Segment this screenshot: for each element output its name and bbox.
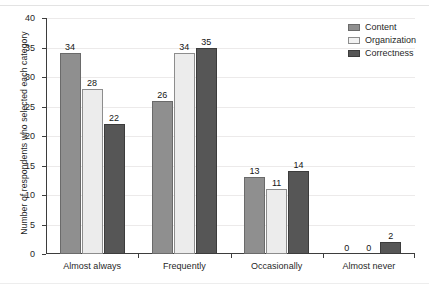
x-axis-category-label: Frequently <box>163 261 206 271</box>
bar[interactable]: 28 <box>82 89 103 254</box>
y-axis-tick-label: 10 <box>25 190 35 200</box>
x-axis-category-label: Almost never <box>343 261 396 271</box>
y-axis-tick-label: 30 <box>25 72 35 82</box>
bar[interactable]: 22 <box>104 124 125 254</box>
y-axis-tick-label: 20 <box>25 131 35 141</box>
bar-value-label: 2 <box>388 231 393 241</box>
bar-value-label: 11 <box>272 178 281 188</box>
bar[interactable]: 2 <box>380 242 401 254</box>
legend-item-label: Content <box>365 22 397 32</box>
bar[interactable]: 11 <box>266 189 287 254</box>
scan-artifact-top <box>0 5 429 6</box>
x-axis-tick <box>323 254 324 258</box>
legend-swatch-content <box>348 24 360 31</box>
bar-value-label: 22 <box>109 113 119 123</box>
y-axis-tick: 0 <box>42 254 46 255</box>
x-axis-category-label: Almost always <box>63 261 121 271</box>
legend-swatch-correctness <box>348 50 360 57</box>
x-axis-tick <box>231 254 232 258</box>
bar-value-label: 13 <box>250 166 260 176</box>
bar-value-label: 26 <box>157 90 167 100</box>
bar[interactable]: 34 <box>60 53 81 254</box>
bar[interactable]: 26 <box>152 101 173 254</box>
legend-item-label: Organization <box>365 35 416 45</box>
bar-group: 342822Almost always <box>46 18 138 254</box>
legend-item[interactable]: Correctness <box>348 48 416 58</box>
bar-value-label: 35 <box>201 37 211 47</box>
bar-value-label: 0 <box>366 243 371 253</box>
bar-value-label: 0 <box>344 243 349 253</box>
bar-value-label: 34 <box>65 42 75 52</box>
bar[interactable]: 35 <box>196 48 217 255</box>
bar-group: 263435Frequently <box>138 18 230 254</box>
y-axis-tick-label: 15 <box>25 161 35 171</box>
bar[interactable]: 13 <box>244 177 265 254</box>
y-axis-tick-label: 5 <box>30 220 35 230</box>
y-axis-tick-label: 40 <box>25 13 35 23</box>
legend-swatch-organization <box>348 37 360 44</box>
legend-item-label: Correctness <box>365 48 414 58</box>
bar-chart: Number of respondents who selected each … <box>0 0 429 288</box>
x-axis-tick <box>138 254 139 258</box>
x-axis-tick <box>414 254 415 258</box>
bar-value-label: 28 <box>87 78 97 88</box>
scan-artifact-bottom <box>0 283 429 284</box>
chart-legend: ContentOrganizationCorrectness <box>348 22 416 58</box>
bar-group: 131114Occasionally <box>231 18 323 254</box>
y-axis-tick-label: 0 <box>30 249 35 259</box>
bar-value-label: 14 <box>294 160 304 170</box>
y-axis-tick-label: 35 <box>25 43 35 53</box>
x-axis-category-label: Occasionally <box>251 261 302 271</box>
y-axis-tick-label: 25 <box>25 102 35 112</box>
bar-value-label: 34 <box>179 42 189 52</box>
bar[interactable]: 34 <box>174 53 195 254</box>
bar[interactable]: 14 <box>288 171 309 254</box>
legend-item[interactable]: Organization <box>348 35 416 45</box>
legend-item[interactable]: Content <box>348 22 416 32</box>
